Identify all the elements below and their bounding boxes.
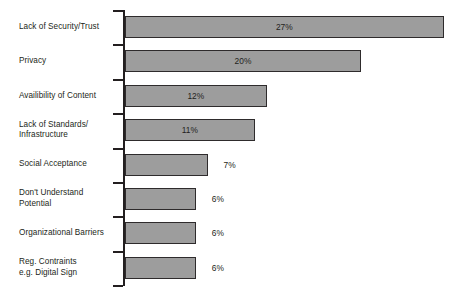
bar-row: Organizational Barriers6% xyxy=(0,216,457,250)
bar-row: Privacy20% xyxy=(0,44,457,78)
bar xyxy=(125,257,196,279)
bar-row: Reg. Contraintse.g. Digital Sign6% xyxy=(0,251,457,285)
bar xyxy=(125,119,255,141)
axis-tick xyxy=(113,285,123,287)
bar-value-label-outside: 6% xyxy=(212,257,224,279)
category-label: Don't UnderstandPotential xyxy=(19,182,119,216)
bar xyxy=(125,85,267,107)
bar-value-label-outside: 6% xyxy=(212,188,224,210)
category-label: Reg. Contraintse.g. Digital Sign xyxy=(19,251,119,285)
bar xyxy=(125,188,196,210)
category-label: Social Acceptance xyxy=(19,148,119,182)
bar xyxy=(125,50,361,72)
bar-row: Lack of Standards/Infrastructure11% xyxy=(0,113,457,147)
bar-row: Lack of Security/Trust27% xyxy=(0,10,457,44)
bar xyxy=(125,154,208,176)
bar-chart: Lack of Security/Trust27%Privacy20%Avail… xyxy=(0,0,457,295)
bar xyxy=(125,222,196,244)
bar-value-label-outside: 7% xyxy=(224,154,236,176)
category-label: Lack of Security/Trust xyxy=(19,10,119,44)
bar-value-label-outside: 6% xyxy=(212,222,224,244)
bar-row: Social Acceptance7% xyxy=(0,148,457,182)
category-label: Lack of Standards/Infrastructure xyxy=(19,113,119,147)
category-label: Privacy xyxy=(19,44,119,78)
bar-row: Availibility of Content12% xyxy=(0,79,457,113)
category-label: Availibility of Content xyxy=(19,79,119,113)
bar xyxy=(125,16,444,38)
bar-row: Don't UnderstandPotential6% xyxy=(0,182,457,216)
category-label: Organizational Barriers xyxy=(19,216,119,250)
